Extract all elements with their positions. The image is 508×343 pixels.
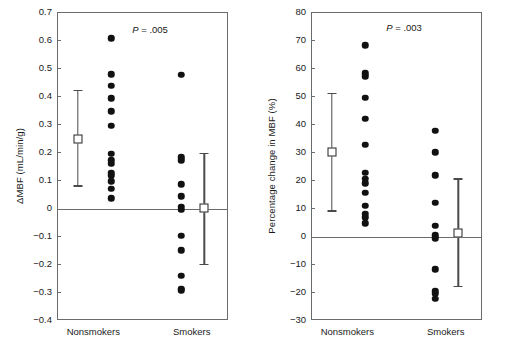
y-axis-tick-label: −0.2: [33, 258, 52, 270]
p-value-annotation: P = .003: [386, 22, 422, 33]
y-axis-tick: 0: [254, 236, 311, 248]
data-point: [362, 180, 369, 187]
y-axis-tick-label: 0.3: [39, 118, 52, 130]
y-axis-tick-mark: [57, 292, 61, 293]
y-axis-tick: 0.5: [0, 68, 57, 80]
data-point: [178, 232, 185, 239]
y-axis-tick: 0.6: [0, 40, 57, 52]
y-axis-tick: 60: [254, 68, 311, 80]
y-axis-tick-label: −0.3: [33, 286, 52, 298]
y-axis-tick: 10: [254, 208, 311, 220]
x-axis-label-nonsmokers: Nonsmokers: [67, 326, 120, 337]
y-axis-tick-label: 50: [295, 90, 306, 102]
data-point: [362, 116, 369, 123]
y-axis-tick-label: 0.4: [39, 90, 52, 102]
mean-marker: [73, 135, 82, 144]
y-axis-tick-mark: [57, 96, 61, 97]
y-axis-tick-label: 80: [295, 6, 306, 18]
y-axis-tick-label: 0: [47, 202, 52, 214]
y-axis-tick-label: 40: [295, 118, 306, 130]
data-point: [178, 272, 185, 279]
data-point: [108, 178, 115, 185]
y-axis-tick: −0.4: [0, 320, 57, 332]
data-point: [362, 220, 369, 227]
y-axis-tick-mark: [311, 152, 315, 153]
y-axis-tick-mark: [311, 208, 315, 209]
y-axis-tick-label: 30: [295, 146, 306, 158]
y-axis-tick-label: 60: [295, 62, 306, 74]
y-axis-tick-label: 10: [295, 202, 306, 214]
y-axis-tick: 20: [254, 180, 311, 192]
error-bar-cap-lower: [200, 264, 209, 265]
mean-error-bar: [198, 153, 210, 265]
mean-marker: [454, 229, 463, 238]
data-point: [432, 127, 439, 134]
y-axis-tick: −0.1: [0, 236, 57, 248]
y-axis-tick: 50: [254, 96, 311, 108]
y-axis-tick: −0.3: [0, 292, 57, 304]
data-point: [108, 160, 115, 167]
y-axis-tick-mark: [311, 124, 315, 125]
y-axis-tick: 0.1: [0, 180, 57, 192]
data-point: [432, 149, 439, 156]
y-axis-tick-mark: [57, 40, 61, 41]
panel-percentage-change-mbf: Percentage change in MBF (%)807060504030…: [254, 0, 508, 343]
y-axis-tick-label: 0.7: [39, 6, 52, 18]
error-bar-cap-lower: [327, 210, 336, 211]
data-point: [108, 185, 115, 192]
y-axis-tick-mark: [57, 236, 61, 237]
mean-error-bar: [452, 178, 464, 287]
data-point: [432, 235, 439, 242]
data-point: [178, 71, 185, 78]
data-point: [108, 95, 115, 102]
y-axis-tick: 0.2: [0, 152, 57, 164]
mean-error-bar: [326, 93, 338, 212]
y-axis-tick-label: 0.5: [39, 62, 52, 74]
data-point: [362, 94, 369, 101]
data-point: [362, 73, 369, 80]
data-point: [362, 141, 369, 148]
y-axis-tick: 40: [254, 124, 311, 136]
error-bar-cap-upper: [200, 153, 209, 154]
mean-marker: [327, 148, 336, 157]
y-axis-tick-label: −0.1: [33, 230, 52, 242]
y-axis-tick: 0.4: [0, 96, 57, 108]
y-axis-tick-mark: [311, 96, 315, 97]
data-point: [108, 108, 115, 115]
y-axis-tick-label: −0.4: [33, 314, 52, 326]
y-axis-tick-label: −30: [290, 314, 306, 326]
y-axis-tick: 70: [254, 40, 311, 52]
data-point: [178, 157, 185, 164]
mean-marker: [200, 203, 209, 212]
y-axis-tick: −10: [254, 264, 311, 276]
y-axis-tick-mark: [311, 180, 315, 181]
y-axis-tick-mark: [57, 124, 61, 125]
error-bar-cap-lower: [73, 185, 82, 186]
y-axis-tick: −30: [254, 320, 311, 332]
y-axis-tick-label: 0.6: [39, 34, 52, 46]
p-value-annotation: P = .005: [132, 24, 168, 35]
data-point: [178, 247, 185, 254]
y-axis-tick-label: 20: [295, 174, 306, 186]
data-point: [432, 223, 439, 230]
y-axis-tick-mark: [311, 40, 315, 41]
data-point: [432, 295, 439, 302]
y-axis-tick-mark: [57, 152, 61, 153]
y-axis-tick-mark: [57, 264, 61, 265]
error-bar-cap-upper: [327, 93, 336, 94]
y-axis-tick-label: 0.2: [39, 146, 52, 158]
data-point: [108, 83, 115, 90]
data-point: [178, 193, 185, 200]
y-axis-tick: −0.2: [0, 264, 57, 276]
error-bar-cap-upper: [454, 178, 463, 179]
y-axis-tick-mark: [311, 68, 315, 69]
y-axis-tick-label: −20: [290, 286, 306, 298]
y-axis-tick-label: 70: [295, 34, 306, 46]
y-axis-tick: −20: [254, 292, 311, 304]
data-point: [432, 266, 439, 273]
data-point: [178, 181, 185, 188]
error-bar-cap-lower: [454, 286, 463, 287]
figure-container: ΔMBF (mL/min/g)0.70.60.50.40.30.20.10−0.…: [0, 0, 508, 343]
y-axis-tick: 0: [0, 208, 57, 220]
x-axis-label-nonsmokers: Nonsmokers: [321, 326, 374, 337]
